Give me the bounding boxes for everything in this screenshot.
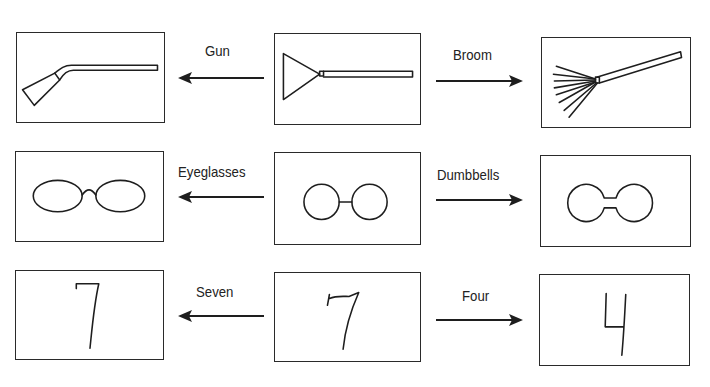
dumbbells-icon	[541, 156, 690, 246]
dumbbells-image-box	[540, 155, 691, 247]
broom-label: Broom	[453, 46, 492, 63]
seven-image-box	[15, 270, 164, 360]
four-digit-icon	[540, 275, 689, 365]
gun-label: Gun	[205, 42, 230, 59]
arrow-right-broom	[436, 74, 523, 88]
broom-gun-ambiguous-icon	[275, 34, 420, 124]
arrow-left-eyeglasses	[178, 190, 264, 204]
gun-icon	[17, 33, 164, 122]
arrow-right-four	[436, 313, 523, 327]
broom-image-box	[541, 37, 691, 128]
ambiguous-circles-box	[274, 152, 421, 245]
broom-icon	[542, 38, 690, 127]
ambiguous-digit-icon	[275, 273, 420, 361]
four-image-box	[539, 274, 690, 366]
seven-digit-icon	[16, 271, 163, 359]
two-circles-icon	[275, 153, 420, 244]
seven-label: Seven	[196, 283, 233, 300]
arrow-left-gun	[178, 71, 264, 85]
eyeglasses-label: Eyeglasses	[178, 163, 246, 180]
ambiguous-seven-four-box	[274, 272, 421, 362]
ambiguous-broom-gun-box	[274, 33, 421, 125]
dumbbells-label: Dumbbells	[437, 166, 499, 183]
eyeglasses-image-box	[15, 151, 164, 242]
arrow-right-dumbbells	[436, 193, 523, 207]
arrow-left-seven	[178, 309, 264, 323]
four-label: Four	[462, 287, 489, 304]
eyeglasses-icon	[16, 152, 163, 241]
gun-image-box	[16, 32, 165, 123]
